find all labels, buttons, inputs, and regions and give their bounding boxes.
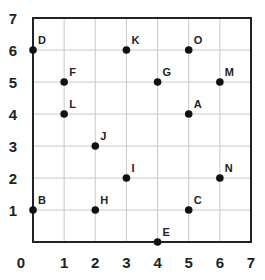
y-tick-label: 1: [9, 202, 17, 219]
point-marker: [29, 206, 37, 214]
point-marker: [91, 142, 99, 150]
point-marker: [29, 46, 37, 54]
point-label: D: [38, 34, 46, 46]
point-f: F: [60, 66, 76, 86]
point-marker: [60, 78, 68, 86]
point-label: K: [131, 34, 139, 46]
y-tick-label: 2: [9, 170, 17, 187]
point-label: H: [100, 194, 108, 206]
point-h: H: [91, 194, 108, 214]
point-label: B: [38, 194, 46, 206]
point-marker: [123, 174, 131, 182]
point-label: A: [194, 98, 202, 110]
y-axis-tick-labels: 1234567: [9, 10, 18, 219]
plot-border: [33, 18, 251, 242]
y-tick-label: 7: [9, 10, 17, 27]
point-j: J: [91, 130, 106, 150]
point-g: G: [154, 66, 171, 86]
point-o: O: [185, 34, 203, 54]
y-tick-label: 3: [9, 138, 17, 155]
y-tick-label: 5: [9, 74, 17, 91]
point-m: M: [216, 66, 234, 86]
point-marker: [60, 110, 68, 118]
point-label: C: [194, 194, 202, 206]
point-marker: [154, 78, 162, 86]
x-tick-label: 2: [91, 254, 99, 271]
x-tick-label: 7: [247, 254, 255, 271]
point-marker: [185, 110, 193, 118]
point-i: I: [123, 162, 135, 182]
point-a: A: [185, 98, 202, 118]
point-label: J: [100, 130, 106, 142]
point-marker: [185, 46, 193, 54]
grid-lines: [33, 18, 251, 242]
point-label: O: [194, 34, 203, 46]
point-label: M: [225, 66, 234, 78]
point-k: K: [123, 34, 140, 54]
x-tick-label: 1: [60, 254, 68, 271]
point-label: I: [131, 162, 134, 174]
point-d: D: [29, 34, 46, 54]
point-marker: [123, 46, 131, 54]
point-marker: [91, 206, 99, 214]
point-l: L: [60, 98, 76, 118]
point-label: N: [225, 162, 233, 174]
point-label: E: [163, 226, 170, 238]
plotted-points: ABCDEFGHIJKLMNO: [29, 34, 234, 246]
point-c: C: [185, 194, 202, 214]
y-tick-label: 4: [9, 106, 18, 123]
point-marker: [154, 238, 162, 246]
x-tick-label: 5: [185, 254, 193, 271]
x-tick-label: 3: [122, 254, 130, 271]
x-tick-label: 6: [216, 254, 224, 271]
point-label: F: [69, 66, 76, 78]
y-tick-label: 6: [9, 42, 17, 59]
point-marker: [216, 174, 224, 182]
point-marker: [185, 206, 193, 214]
point-marker: [216, 78, 224, 86]
x-tick-label: 0: [17, 254, 25, 271]
point-label: G: [163, 66, 172, 78]
x-tick-label: 4: [153, 254, 162, 271]
point-n: N: [216, 162, 233, 182]
point-label: L: [69, 98, 76, 110]
x-axis-tick-labels: 01234567: [17, 254, 255, 271]
point-b: B: [29, 194, 46, 214]
coordinate-grid: 01234567 1234567 ABCDEFGHIJKLMNO: [0, 0, 265, 280]
